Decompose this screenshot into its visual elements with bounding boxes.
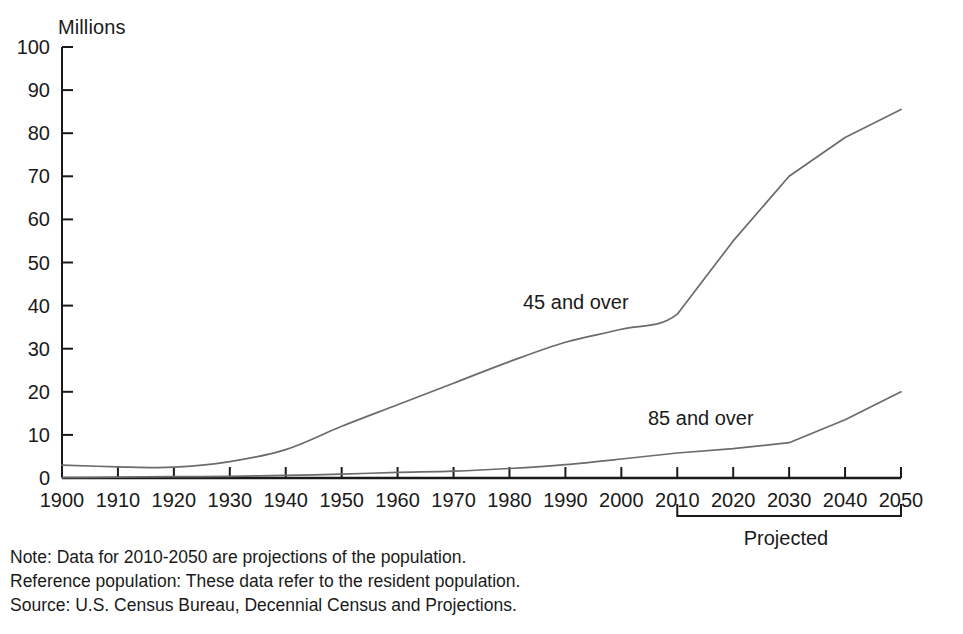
footnotes-block: Note: Data for 2010-2050 are projections…: [10, 545, 520, 617]
footnote-reference-population: Reference population: These data refer t…: [10, 569, 520, 593]
population-chart-figure: Millions 0102030405060708090100 19001910…: [0, 0, 963, 634]
y-tick-label: 20: [4, 380, 50, 403]
x-tick-label: 2010: [655, 489, 700, 512]
x-tick-label: 1920: [152, 489, 197, 512]
y-tick-label: 50: [4, 251, 50, 274]
data-series-lines: [62, 110, 901, 478]
y-tick-label: 10: [4, 423, 50, 446]
x-tick-label: 2050: [879, 489, 924, 512]
x-tick-label: 1990: [543, 489, 588, 512]
y-tick-label: 60: [4, 208, 50, 231]
y-tick-label: 40: [4, 294, 50, 317]
x-tick-label: 2020: [711, 489, 756, 512]
series-label-85-and-over: 85 and over: [648, 407, 754, 430]
y-tick-label: 90: [4, 79, 50, 102]
y-tick-label: 0: [4, 467, 50, 490]
x-tick-label: 1960: [375, 489, 420, 512]
y-tick-label: 100: [4, 36, 50, 59]
x-tick-label: 1900: [40, 489, 85, 512]
x-tick-label: 1970: [431, 489, 476, 512]
series-label-45-and-over: 45 and over: [523, 291, 629, 314]
x-tick-label: 1940: [263, 489, 308, 512]
x-tick-label: 1930: [208, 489, 253, 512]
axis-lines: [62, 47, 901, 478]
y-tick-label: 30: [4, 337, 50, 360]
footnote-source: Source: U.S. Census Bureau, Decennial Ce…: [10, 593, 520, 617]
y-axis-ticks: [62, 47, 73, 478]
y-tick-label: 80: [4, 122, 50, 145]
x-tick-label: 1950: [319, 489, 364, 512]
x-tick-label: 1910: [96, 489, 141, 512]
y-tick-label: 70: [4, 165, 50, 188]
projected-bracket-label: Projected: [744, 527, 829, 550]
x-tick-label: 2030: [767, 489, 812, 512]
x-tick-label: 1980: [487, 489, 532, 512]
x-tick-label: 2000: [599, 489, 644, 512]
footnote-note: Note: Data for 2010-2050 are projections…: [10, 545, 520, 569]
x-tick-label: 2040: [823, 489, 868, 512]
